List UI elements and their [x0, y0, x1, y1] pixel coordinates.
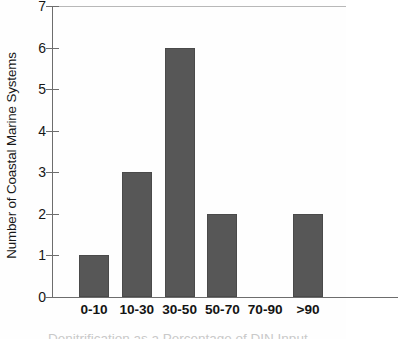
y-axis-tick-label: 2: [24, 207, 46, 221]
y-axis-tick-label: 3: [24, 165, 46, 179]
y-axis-tick-mark: [46, 89, 59, 90]
y-axis-tick-label: 7: [24, 0, 46, 13]
bars-layer: [52, 6, 346, 297]
y-axis-tick-mark: [46, 6, 59, 7]
y-axis-tick-label: 4: [24, 124, 46, 138]
y-axis-tick-mark: [46, 214, 59, 215]
y-axis-tick-mark: [46, 297, 59, 298]
y-axis-tick-label: 0: [24, 290, 46, 304]
y-axis-title: Number of Coastal Marine Systems: [0, 0, 22, 310]
y-axis-tick-mark: [46, 131, 59, 132]
y-axis-tick-label: 5: [24, 82, 46, 96]
y-axis-tick-label: 6: [24, 41, 46, 55]
y-axis-tick-label: 1: [24, 248, 46, 262]
bar: [207, 214, 237, 297]
y-axis-tick-mark: [46, 172, 59, 173]
y-axis-title-text: Number of Coastal Marine Systems: [4, 52, 19, 259]
y-axis-tick-labels: 01234567: [22, 0, 46, 339]
bar: [122, 172, 152, 297]
plot-area: [52, 6, 346, 297]
x-axis-tick-label: >90: [268, 302, 348, 317]
bar: [293, 214, 323, 297]
x-axis-title-text: Denitrification as a Percentage of DIN I…: [48, 333, 308, 339]
x-axis-line: [45, 297, 398, 298]
x-axis-tick-labels: 0-1010-3030-5050-7070-90>90: [52, 302, 346, 320]
y-axis-tick-mark: [46, 48, 59, 49]
bar: [165, 48, 195, 297]
bar: [79, 255, 109, 297]
x-axis-title: Denitrification as a Percentage of DIN I…: [0, 333, 346, 339]
y-axis-tick-mark: [46, 255, 59, 256]
